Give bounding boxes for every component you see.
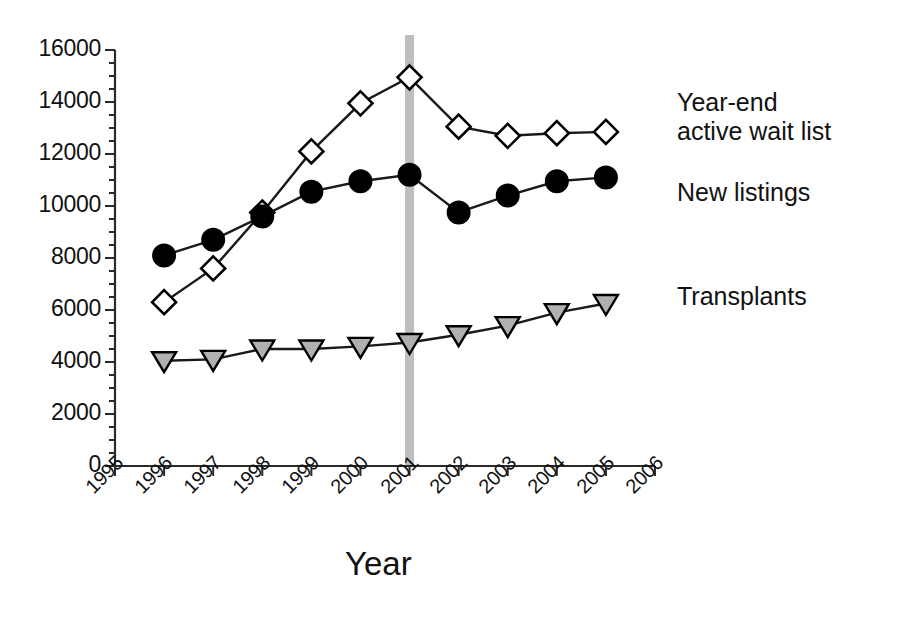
data-point-diamond: [594, 120, 618, 144]
data-point-circle: [595, 166, 617, 188]
data-point-circle: [251, 205, 273, 227]
series-1: [152, 65, 618, 314]
data-point-circle: [300, 181, 322, 203]
series-line: [164, 77, 606, 302]
data-point-circle: [153, 244, 175, 266]
series-line: [164, 175, 606, 256]
data-point-circle: [202, 229, 224, 251]
y-tick-label: 14000: [39, 87, 101, 114]
y-tick-label: 2000: [51, 399, 101, 426]
data-point-circle: [546, 170, 568, 192]
series-label-transplants: Transplants: [677, 282, 807, 311]
data-point-circle: [399, 164, 421, 186]
data-point-triangle: [152, 352, 176, 372]
data-point-diamond: [496, 124, 520, 148]
reference-band: [405, 35, 414, 466]
series-line: [164, 304, 606, 361]
reference-band-rect: [405, 35, 414, 466]
data-point-diamond: [152, 290, 176, 314]
y-tick-label: 10000: [39, 191, 101, 218]
y-tick-label: 16000: [39, 35, 101, 62]
series-label-waitlist: Year-end active wait list: [677, 88, 831, 146]
x-axis-title: Year: [345, 545, 412, 583]
y-tick-label: 8000: [51, 243, 101, 270]
data-point-circle: [349, 170, 371, 192]
series-label-new-listings: New listings: [677, 178, 810, 207]
data-point-circle: [497, 185, 519, 207]
series-2: [153, 164, 617, 267]
y-tick-label: 6000: [51, 295, 101, 322]
y-tick-label: 12000: [39, 139, 101, 166]
chart-figure: 0200040006000800010000120001400016000199…: [0, 0, 903, 625]
y-tick-label: 4000: [51, 347, 101, 374]
series-3: [152, 295, 618, 372]
data-point-triangle: [299, 341, 323, 361]
data-point-diamond: [545, 121, 569, 145]
data-point-circle: [448, 202, 470, 224]
data-point-triangle: [201, 351, 225, 371]
